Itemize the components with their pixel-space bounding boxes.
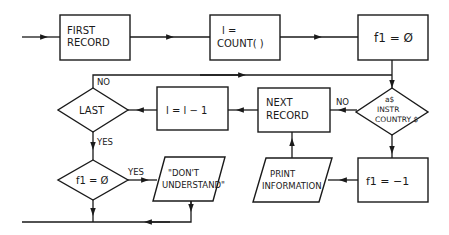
last-no-label: NO xyxy=(97,77,110,87)
node-print-information[interactable]: PRINT INFORMATION xyxy=(253,158,332,202)
instr-label-2: INSTR xyxy=(377,105,399,114)
dont-understand-label-2: UNDERSTAND" xyxy=(162,180,225,190)
node-f1-minus-one[interactable]: f1 = −1 xyxy=(358,158,428,202)
f1-minus-one-label: f1 = −1 xyxy=(366,175,409,188)
instr-no-label: NO xyxy=(336,97,349,107)
next-record-label-1: NEXT xyxy=(266,97,293,108)
arrow-dont-understand-exit xyxy=(22,200,191,222)
node-first-record[interactable]: FIRST RECORD xyxy=(60,15,130,60)
decrement-label: l = l − 1 xyxy=(166,105,207,116)
f1-zero-decision-label: f1 = Ø xyxy=(76,175,109,186)
f1-zero-yes-label: YES xyxy=(127,167,144,177)
node-next-record[interactable]: NEXT RECORD xyxy=(258,88,330,132)
instr-label-1: a$ xyxy=(385,95,395,104)
print-label-1: PRINT xyxy=(270,169,296,179)
last-yes-label: YES xyxy=(96,137,113,147)
f1-zero-init-label: f1 = Ø xyxy=(374,31,413,45)
first-record-label-2: RECORD xyxy=(67,37,110,48)
print-label-2: INFORMATION xyxy=(262,181,322,191)
node-last-decision[interactable]: LAST xyxy=(58,88,128,132)
instr-label-3: COUNTRY $ xyxy=(375,115,419,124)
count-label-1: l = xyxy=(222,25,236,36)
node-instr-decision[interactable]: a$ INSTR COUNTRY $ xyxy=(356,88,428,135)
node-decrement[interactable]: l = l − 1 xyxy=(157,87,228,130)
node-f1-zero-decision[interactable]: f1 = Ø xyxy=(58,160,128,200)
loop-back-line xyxy=(93,75,392,88)
dont-understand-label-1: "DON'T xyxy=(168,168,200,178)
count-label-2: COUNT( ) xyxy=(217,38,264,49)
flowchart-canvas: FIRST RECORD l = COUNT( ) f1 = Ø a$ INST… xyxy=(0,0,449,235)
last-label: LAST xyxy=(79,105,105,116)
next-record-label-2: RECORD xyxy=(266,110,309,121)
node-count[interactable]: l = COUNT( ) xyxy=(210,15,280,60)
first-record-label-1: FIRST xyxy=(67,25,96,36)
node-dont-understand[interactable]: "DON'T UNDERSTAND" xyxy=(153,157,225,201)
node-f1-zero-init[interactable]: f1 = Ø xyxy=(358,15,428,60)
